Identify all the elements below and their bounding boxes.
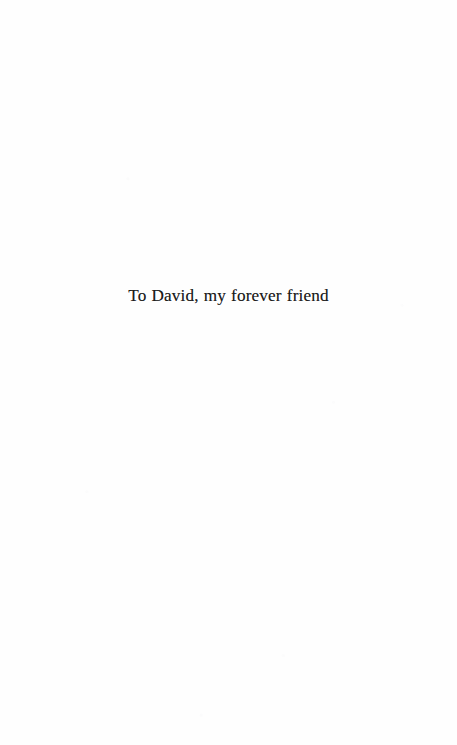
upper-blank-margin bbox=[0, 0, 457, 285]
dedication-text: To David, my forever friend bbox=[128, 285, 328, 306]
lower-blank-margin bbox=[0, 312, 457, 745]
dedication-block: To David, my forever friend bbox=[0, 285, 457, 306]
scanned-page: To David, my forever friend bbox=[0, 0, 457, 745]
